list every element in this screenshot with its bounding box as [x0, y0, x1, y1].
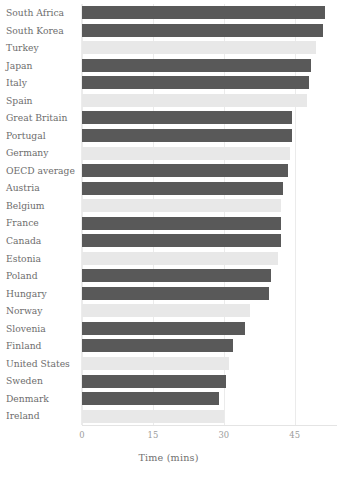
- category-label: Poland: [0, 267, 77, 285]
- bar-row: France: [0, 214, 337, 232]
- category-label: Hungary: [0, 285, 77, 303]
- category-label: Italy: [0, 74, 77, 92]
- bar-row: Poland: [0, 267, 337, 285]
- x-tick-label: 45: [289, 430, 300, 440]
- bar: [82, 410, 224, 423]
- bar-row: United States: [0, 355, 337, 373]
- x-axis-line: [82, 425, 337, 426]
- category-label: Ireland: [0, 407, 77, 425]
- bar: [82, 252, 278, 265]
- category-label: Estonia: [0, 250, 77, 268]
- bar: [82, 304, 250, 317]
- category-label: Norway: [0, 302, 77, 320]
- category-label: France: [0, 214, 77, 232]
- bar-row: Japan: [0, 57, 337, 75]
- bar: [82, 217, 281, 230]
- category-label: Finland: [0, 337, 77, 355]
- x-tick-label: 0: [79, 430, 84, 440]
- category-label: Sweden: [0, 372, 77, 390]
- bar: [82, 164, 288, 177]
- bar-row: Belgium: [0, 197, 337, 215]
- x-axis-title: Time (mins): [0, 452, 337, 463]
- category-label: South Korea: [0, 22, 77, 40]
- bar-row: Norway: [0, 302, 337, 320]
- bar-row: OECD average: [0, 162, 337, 180]
- bar: [82, 94, 307, 107]
- bar-row: South Korea: [0, 22, 337, 40]
- bar: [82, 339, 233, 352]
- bar-row: Canada: [0, 232, 337, 250]
- bar-chart: South AfricaSouth KoreaTurkeyJapanItalyS…: [0, 0, 337, 481]
- bar: [82, 24, 323, 37]
- category-label: Great Britain: [0, 109, 77, 127]
- bar-row: South Africa: [0, 4, 337, 22]
- bar: [82, 375, 226, 388]
- category-label: Slovenia: [0, 320, 77, 338]
- bar: [82, 322, 245, 335]
- bar-row: Estonia: [0, 250, 337, 268]
- bar-row: Sweden: [0, 372, 337, 390]
- x-tick-label: 30: [218, 430, 229, 440]
- bar-rows: South AfricaSouth KoreaTurkeyJapanItalyS…: [0, 0, 337, 425]
- category-label: Germany: [0, 144, 77, 162]
- bar: [82, 199, 281, 212]
- bar-row: Finland: [0, 337, 337, 355]
- category-label: Japan: [0, 57, 77, 75]
- bar-row: Portugal: [0, 127, 337, 145]
- bar-row: Austria: [0, 179, 337, 197]
- category-label: South Africa: [0, 4, 77, 22]
- bar: [82, 59, 311, 72]
- bar: [82, 182, 283, 195]
- bar: [82, 6, 325, 19]
- bar: [82, 129, 292, 142]
- bar: [82, 287, 269, 300]
- bar: [82, 147, 290, 160]
- bar-row: Turkey: [0, 39, 337, 57]
- bar-row: Spain: [0, 92, 337, 110]
- category-label: Belgium: [0, 197, 77, 215]
- category-label: Austria: [0, 179, 77, 197]
- bar-row: Italy: [0, 74, 337, 92]
- category-label: OECD average: [0, 162, 77, 180]
- category-label: United States: [0, 355, 77, 373]
- bar: [82, 392, 219, 405]
- bar-row: Ireland: [0, 407, 337, 425]
- bar: [82, 269, 271, 282]
- bar-row: Hungary: [0, 285, 337, 303]
- bar-row: Germany: [0, 144, 337, 162]
- x-axis-tick-labels: 015304560: [0, 430, 337, 446]
- bar-row: Slovenia: [0, 320, 337, 338]
- x-tick-label: 15: [148, 430, 159, 440]
- category-label: Portugal: [0, 127, 77, 145]
- bar-row: Great Britain: [0, 109, 337, 127]
- bar: [82, 357, 229, 370]
- category-label: Denmark: [0, 390, 77, 408]
- bar: [82, 234, 281, 247]
- category-label: Spain: [0, 92, 77, 110]
- bar-row: Denmark: [0, 390, 337, 408]
- category-label: Canada: [0, 232, 77, 250]
- bar: [82, 41, 316, 54]
- category-label: Turkey: [0, 39, 77, 57]
- bar: [82, 76, 309, 89]
- bar: [82, 111, 292, 124]
